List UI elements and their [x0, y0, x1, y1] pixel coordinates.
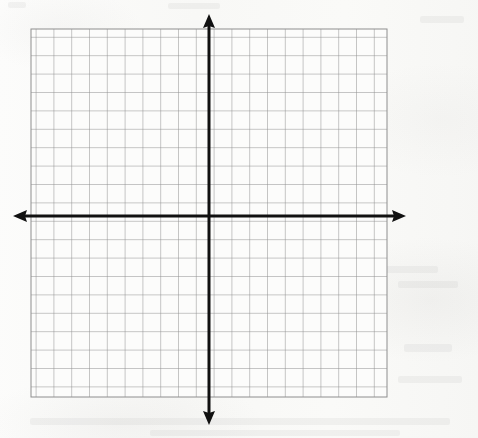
- y-axis-bottom-arrowhead: [203, 411, 215, 425]
- x-axis-left-arrowhead: [13, 210, 27, 222]
- worksheet-page: [0, 0, 478, 438]
- x-axis-right-arrowhead: [392, 210, 406, 222]
- coordinate-plane: [0, 0, 478, 438]
- y-axis-top-arrowhead: [203, 14, 215, 28]
